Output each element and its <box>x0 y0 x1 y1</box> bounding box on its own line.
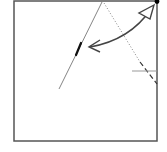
origami-fold-diagram <box>0 0 167 152</box>
